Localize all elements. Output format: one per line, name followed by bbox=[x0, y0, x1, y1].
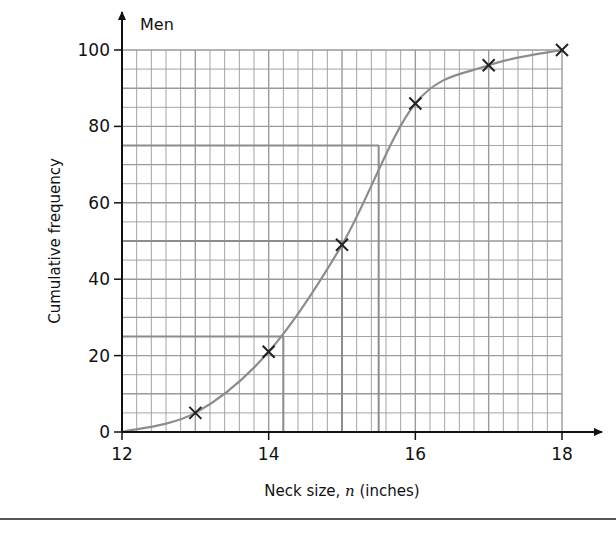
y-tick-label: 20 bbox=[88, 346, 110, 366]
x-axis-title-prefix: Neck size, bbox=[264, 482, 345, 500]
y-tick-label: 60 bbox=[88, 193, 110, 213]
axis-ticks: 12141618020406080100 bbox=[78, 40, 573, 464]
x-tick-label: 12 bbox=[111, 444, 133, 464]
cumulative-frequency-chart: 12141618020406080100 Men Cumulative freq… bbox=[0, 0, 616, 536]
y-tick-label: 0 bbox=[99, 422, 110, 442]
series-label: Men bbox=[140, 15, 174, 34]
x-tick-label: 16 bbox=[405, 444, 427, 464]
x-axis-variable: n bbox=[345, 482, 355, 500]
quartile-reading-lines bbox=[122, 146, 379, 433]
x-axis-title-suffix: (inches) bbox=[355, 482, 420, 500]
bottom-divider bbox=[0, 518, 616, 520]
x-tick-label: 18 bbox=[551, 444, 573, 464]
y-tick-label: 80 bbox=[88, 116, 110, 136]
y-tick-label: 40 bbox=[88, 269, 110, 289]
x-tick-label: 14 bbox=[258, 444, 280, 464]
x-axis-title: Neck size, n (inches) bbox=[264, 482, 419, 500]
y-tick-label: 100 bbox=[78, 40, 110, 60]
y-axis-title: Cumulative frequency bbox=[46, 158, 64, 324]
